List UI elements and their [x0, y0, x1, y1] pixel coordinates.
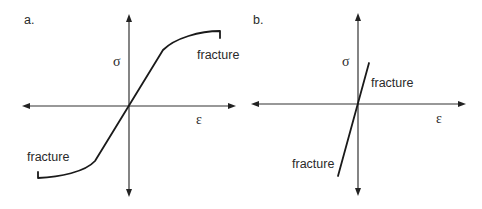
panel-a-axis-arrow-left-icon	[22, 103, 30, 109]
panel-a-label: a.	[24, 13, 34, 27]
panel-b-label: b.	[253, 13, 263, 27]
panel-a: a. σ ε fracture fracture	[22, 13, 239, 197]
panel-b-stress-strain-line	[338, 63, 369, 176]
diagram-canvas: a. σ ε fracture fracture b. σ ε fracture…	[0, 0, 482, 209]
panel-b-fracture-upper-label: fracture	[371, 76, 413, 90]
panel-a-fracture-lower-label: fracture	[27, 150, 69, 164]
panel-a-sigma-label: σ	[113, 54, 121, 69]
panel-b-axis-arrow-left-icon	[251, 101, 259, 107]
panel-a-axis-arrow-up-icon	[126, 14, 132, 22]
panel-a-axis-arrow-right-icon	[228, 103, 236, 109]
panel-b-axis-arrow-right-icon	[458, 101, 466, 107]
panel-a-fracture-upper-label: fracture	[197, 48, 239, 62]
panel-b-axis-arrow-up-icon	[355, 13, 361, 21]
panel-a-axis-arrow-down-icon	[126, 189, 132, 197]
panel-b-axis-arrow-down-icon	[355, 188, 361, 196]
panel-b-fracture-lower-label: fracture	[292, 157, 334, 171]
panel-b: b. σ ε fracture fracture	[251, 13, 466, 196]
panel-b-epsilon-label: ε	[436, 111, 442, 126]
panel-b-sigma-label: σ	[342, 54, 350, 69]
panel-a-epsilon-label: ε	[196, 112, 202, 127]
